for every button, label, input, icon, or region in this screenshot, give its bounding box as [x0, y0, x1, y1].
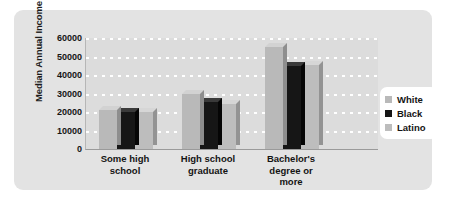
chart-legend: WhiteBlackLatino	[380, 87, 438, 139]
y-tick-label: 40000	[40, 70, 82, 80]
y-axis-tick-labels: 0100002000030000400005000060000	[40, 32, 82, 156]
gridline	[86, 57, 378, 59]
y-tick-label: 60000	[40, 33, 82, 43]
bar-side-face	[135, 108, 139, 145]
gridline	[86, 38, 378, 40]
legend-swatch	[385, 124, 392, 131]
bar-front-face	[265, 47, 283, 149]
bar-side-face	[117, 106, 121, 145]
chart-figure: Median Annual Income 0100002000030000400…	[0, 0, 450, 204]
y-tick-label: 0	[40, 144, 82, 154]
legend-item[interactable]: Latino	[385, 120, 434, 134]
legend-label: Black	[397, 108, 422, 119]
y-tick-label: 10000	[40, 126, 82, 136]
bar	[182, 94, 200, 150]
legend-label: Latino	[397, 122, 426, 133]
legend-swatch	[385, 96, 392, 103]
bar-side-face	[200, 90, 204, 146]
bar	[265, 47, 283, 149]
bar-front-face	[182, 94, 200, 150]
gridline	[86, 94, 378, 96]
bar-side-face	[319, 61, 323, 145]
x-tick-label: High school graduate	[171, 153, 245, 176]
legend-label: White	[397, 94, 423, 105]
bar-front-face	[99, 110, 117, 149]
y-tick-label: 30000	[40, 89, 82, 99]
y-tick-label: 50000	[40, 52, 82, 62]
chart-panel: Median Annual Income 0100002000030000400…	[14, 10, 432, 190]
bar	[99, 110, 117, 149]
bar-side-face	[236, 100, 240, 145]
legend-item[interactable]: White	[385, 92, 434, 106]
bar-side-face	[283, 43, 287, 145]
legend-swatch	[385, 110, 392, 117]
legend-item[interactable]: Black	[385, 106, 434, 120]
gridline	[86, 75, 378, 77]
bar-side-face	[301, 62, 305, 145]
x-tick-label: Bachelor's degree or more	[258, 153, 324, 188]
y-tick-label: 20000	[40, 107, 82, 117]
x-tick-label: Some high school	[88, 153, 162, 176]
bar-side-face	[153, 108, 157, 145]
plot-area	[85, 38, 378, 150]
bar-side-face	[218, 98, 222, 145]
